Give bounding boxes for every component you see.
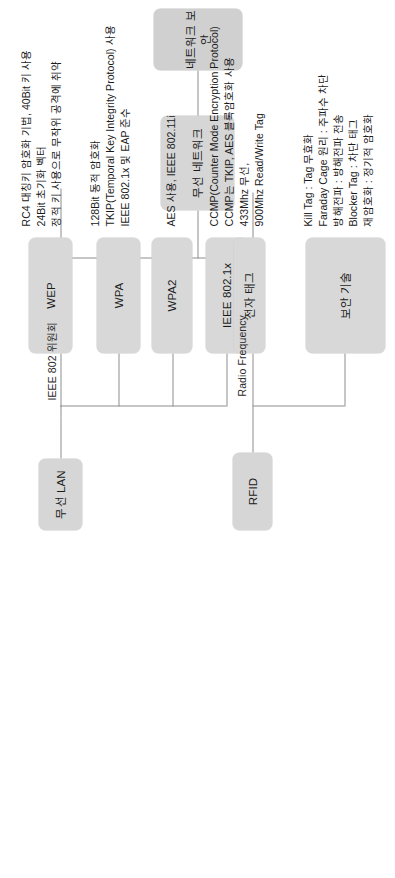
edge-label-radio-frequency: Radio Frequency	[235, 315, 247, 396]
wlan-child-bus	[60, 405, 226, 406]
desc-wpa2: AES 사용, IEEE 802.11i	[163, 115, 178, 226]
node-wep-label: WEP	[43, 282, 57, 309]
desc-ieee-8021x: CCMP(Counter Mode Encryption Protocol) C…	[206, 26, 236, 226]
edge-root-to-wireless-network	[197, 70, 198, 118]
node-rfid-label: RFID	[245, 477, 259, 504]
desc-wpa: 128Bit 동적 암호화 TKIP(Temporal Key Integrit…	[87, 25, 132, 226]
edge-label-ieee-802-committee: IEEE 802 위원회	[43, 322, 58, 400]
edge-rfid-child-2	[344, 353, 345, 406]
edge-wlan-child-2	[118, 353, 119, 406]
node-security-technology[interactable]: 보안 기술	[305, 237, 385, 353]
desc-wep: RC4 대칭키 암호화 기법, 40Bit 키 사용 24Bit 초기화 벡터 …	[18, 49, 63, 226]
edge-wlan-child-4	[226, 353, 227, 406]
edge-wlan-child-1	[60, 353, 61, 406]
edge-rfid-to-bus	[252, 406, 253, 452]
node-wireless-network-label: 무선 네트워크	[190, 128, 204, 198]
node-wpa2-label: WPA2	[164, 279, 178, 311]
rotated-diagram-surface: 네트워크 보안 무선 네트워크 무선 LAN RFID WEP WPA WPA2…	[0, 0, 395, 878]
edge-wlan-to-bus	[60, 416, 61, 458]
node-rfid[interactable]: RFID	[232, 452, 272, 530]
rfid-child-bus	[252, 405, 344, 406]
node-wpa2[interactable]: WPA2	[151, 237, 192, 353]
node-wireless-lan-label: 무선 LAN	[53, 470, 67, 518]
edge-rfid-child-1	[252, 353, 253, 406]
node-ieee-8021x-label: IEEE 802.1x	[219, 262, 233, 327]
edge-wlan-child-3	[172, 353, 173, 406]
edge-wlan-bus-stub	[60, 405, 61, 416]
node-wireless-lan[interactable]: 무선 LAN	[38, 458, 82, 530]
diagram-canvas: 네트워크 보안 무선 네트워크 무선 LAN RFID WEP WPA WPA2…	[0, 0, 395, 878]
node-wpa-label: WPA	[111, 282, 125, 308]
node-security-technology-label: 보안 기술	[338, 271, 352, 319]
node-electronic-tag-label: 전자 태그	[242, 271, 256, 319]
node-wpa[interactable]: WPA	[96, 237, 140, 353]
desc-electronic-tag: 433Mhz 무선, 900Mhz Read/Write Tag	[236, 113, 266, 226]
desc-security-technology: Kill Tag : Tag 무효화 Faraday Cage 원리 : 주파수…	[300, 74, 375, 226]
edge-wireless-network-to-spine	[197, 210, 198, 258]
